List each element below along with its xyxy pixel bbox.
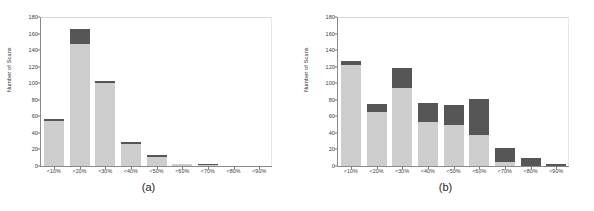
bar-segment-lower bbox=[444, 125, 464, 166]
x-tick-mark bbox=[556, 166, 557, 169]
x-tick-mark bbox=[234, 166, 235, 169]
figure-two-panel-bar-charts: Number of Scans <10%<20%<30%<40%<50%<60%… bbox=[0, 0, 594, 211]
x-tick-mark bbox=[182, 166, 183, 169]
bar-segment-upper bbox=[521, 158, 541, 166]
bar-segment-lower bbox=[70, 44, 90, 167]
bar-segment-lower bbox=[147, 157, 167, 166]
bar-slot bbox=[364, 17, 390, 166]
y-tick-label: 180 bbox=[0, 14, 38, 20]
bar-segment-lower bbox=[121, 144, 141, 166]
y-tick-mark bbox=[37, 99, 40, 100]
x-tick-mark bbox=[505, 166, 506, 169]
bar-segment-upper bbox=[70, 29, 90, 43]
bar-slot bbox=[221, 17, 247, 166]
bar-segment-upper bbox=[444, 105, 464, 125]
y-tick-label: 140 bbox=[0, 47, 38, 53]
y-tick-label: 160 bbox=[297, 31, 335, 37]
panel-a: Number of Scans <10%<20%<30%<40%<50%<60%… bbox=[0, 0, 297, 211]
y-tick-label: 0 bbox=[297, 163, 335, 169]
bar-slot bbox=[118, 17, 144, 166]
stacked-bar bbox=[95, 81, 115, 166]
y-tick-label: 20 bbox=[0, 146, 38, 152]
y-tick-label: 80 bbox=[0, 97, 38, 103]
bar-slot bbox=[492, 17, 518, 166]
x-tick-mark bbox=[454, 166, 455, 169]
y-tick-label: 0 bbox=[0, 163, 38, 169]
y-tick-label: 120 bbox=[0, 64, 38, 70]
y-tick-label: 40 bbox=[297, 130, 335, 136]
bar-group-a bbox=[41, 17, 272, 166]
y-tick-mark bbox=[334, 99, 337, 100]
x-tick-mark bbox=[351, 166, 352, 169]
bar-slot bbox=[415, 17, 441, 166]
x-tick-mark bbox=[157, 166, 158, 169]
y-tick-label: 160 bbox=[0, 31, 38, 37]
bar-segment-lower bbox=[392, 88, 412, 166]
bar-segment-lower bbox=[469, 135, 489, 166]
bar-segment-lower bbox=[95, 83, 115, 166]
panel-caption-b: (b) bbox=[297, 181, 594, 193]
stacked-bar bbox=[147, 155, 167, 166]
y-tick-mark bbox=[334, 132, 337, 133]
stacked-bar bbox=[341, 61, 361, 166]
bar-segment-upper bbox=[469, 99, 489, 135]
bar-slot bbox=[246, 17, 272, 166]
stacked-bar bbox=[70, 29, 90, 166]
bar-segment-lower bbox=[341, 65, 361, 166]
bar-segment-lower bbox=[367, 112, 387, 166]
stacked-bar bbox=[367, 104, 387, 166]
y-tick-mark bbox=[37, 149, 40, 150]
y-tick-mark bbox=[37, 50, 40, 51]
x-tick-mark bbox=[208, 166, 209, 169]
stacked-bar bbox=[418, 103, 438, 166]
y-tick-label: 140 bbox=[297, 47, 335, 53]
bar-slot bbox=[466, 17, 492, 166]
x-tick-mark bbox=[428, 166, 429, 169]
y-tick-mark bbox=[334, 66, 337, 67]
x-tick-mark bbox=[377, 166, 378, 169]
y-tick-label: 100 bbox=[297, 80, 335, 86]
bar-segment-upper bbox=[418, 103, 438, 122]
bar-slot bbox=[169, 17, 195, 166]
y-tick-label: 80 bbox=[297, 97, 335, 103]
y-tick-mark bbox=[37, 166, 40, 167]
bar-segment-upper bbox=[392, 68, 412, 88]
bar-segment-upper bbox=[495, 148, 515, 162]
bar-slot bbox=[441, 17, 467, 166]
y-tick-mark bbox=[334, 50, 337, 51]
x-tick-mark bbox=[531, 166, 532, 169]
stacked-bar bbox=[392, 68, 412, 166]
y-tick-mark bbox=[37, 83, 40, 84]
bar-slot bbox=[543, 17, 569, 166]
bar-slot bbox=[144, 17, 170, 166]
x-tick-mark bbox=[131, 166, 132, 169]
x-tick-mark bbox=[80, 166, 81, 169]
stacked-bar bbox=[444, 105, 464, 166]
x-tick-mark bbox=[259, 166, 260, 169]
bar-slot bbox=[338, 17, 364, 166]
x-tick-mark bbox=[105, 166, 106, 169]
bar-slot bbox=[518, 17, 544, 166]
bar-slot bbox=[195, 17, 221, 166]
y-tick-label: 20 bbox=[297, 146, 335, 152]
stacked-bar bbox=[521, 158, 541, 166]
panel-caption-a: (a) bbox=[0, 181, 297, 193]
stacked-bar bbox=[44, 119, 64, 166]
y-tick-mark bbox=[37, 66, 40, 67]
y-tick-mark bbox=[37, 132, 40, 133]
bar-segment-lower bbox=[418, 122, 438, 166]
y-tick-mark bbox=[37, 116, 40, 117]
stacked-bar bbox=[469, 99, 489, 166]
bar-segment-upper bbox=[367, 104, 387, 112]
y-tick-mark bbox=[37, 17, 40, 18]
y-tick-label: 40 bbox=[0, 130, 38, 136]
y-tick-mark bbox=[334, 17, 337, 18]
bar-slot bbox=[389, 17, 415, 166]
y-tick-label: 180 bbox=[297, 14, 335, 20]
y-tick-label: 100 bbox=[0, 80, 38, 86]
x-tick-mark bbox=[54, 166, 55, 169]
y-tick-mark bbox=[334, 116, 337, 117]
y-tick-label: 120 bbox=[297, 64, 335, 70]
x-tick-mark bbox=[479, 166, 480, 169]
y-tick-mark bbox=[334, 149, 337, 150]
